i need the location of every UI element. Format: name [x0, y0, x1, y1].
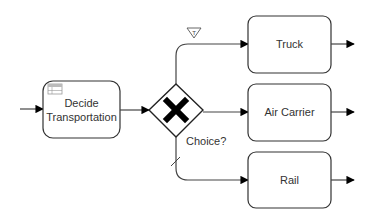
task-truck[interactable]: Truck [248, 16, 331, 73]
bpmn-diagram: Decide Transportation Choice? T Truck Ai… [0, 0, 374, 224]
sequence-flow-to-truck[interactable] [176, 44, 248, 84]
task-air-carrier[interactable]: Air Carrier [248, 84, 331, 141]
task-label: Rail [280, 174, 299, 186]
conditional-marker-text: T [192, 30, 196, 36]
task-rail[interactable]: Rail [248, 152, 331, 208]
task-label: Decide [64, 97, 98, 109]
task-label: Transportation [46, 111, 117, 123]
exclusive-gateway[interactable] [149, 84, 203, 137]
gateway-label: Choice? [186, 135, 226, 147]
task-label: Truck [276, 38, 304, 50]
task-decide-transportation[interactable]: Decide Transportation [43, 81, 120, 138]
task-label: Air Carrier [264, 106, 314, 118]
conditional-flow-marker-icon: T [187, 28, 201, 38]
business-rule-table-icon [48, 84, 62, 94]
